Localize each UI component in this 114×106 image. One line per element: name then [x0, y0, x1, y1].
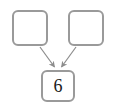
edge-right-to-sum: [62, 47, 77, 67]
node-operand-right[interactable]: [68, 10, 104, 46]
node-result-sum-label: 6: [54, 77, 63, 95]
number-bond-diagram: 6: [0, 0, 114, 106]
node-result-sum[interactable]: 6: [41, 70, 75, 102]
node-operand-left[interactable]: [12, 10, 48, 46]
edge-left-to-sum: [40, 47, 55, 67]
